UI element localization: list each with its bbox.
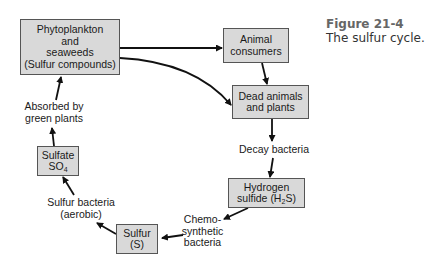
- label-chemosynthetic-bacteria: Chemo- synthetic bacteria: [180, 214, 225, 249]
- sulfur-cycle-diagram: Phytoplankton and seaweeds (Sulfur compo…: [0, 0, 433, 266]
- label-sulfur-bacteria: Sulfur bacteria (aerobic): [45, 197, 117, 220]
- label-line: (aerobic): [45, 209, 117, 221]
- arrow-h2s-to-chemo: [224, 208, 248, 219]
- formula-subscript: 4: [64, 166, 68, 173]
- node-line: and plants: [246, 102, 294, 114]
- node-hydrogen-sulfide: Hydrogen sulfide (H2S): [228, 178, 305, 208]
- label-line: green plants: [23, 113, 85, 125]
- formula-part: sulfide (H: [237, 192, 281, 204]
- node-line: consumers: [230, 46, 281, 58]
- node-line: Animal: [240, 34, 272, 46]
- node-line: (S): [130, 239, 144, 251]
- arrow-phyto-to-dead: [120, 58, 231, 105]
- label-line: Absorbed by: [23, 101, 85, 113]
- node-line: Phytoplankton: [37, 24, 104, 36]
- node-phytoplankton: Phytoplankton and seaweeds (Sulfur compo…: [20, 19, 120, 75]
- arrow-bacteria-to-sulfate: [63, 177, 74, 195]
- arrow-absorbed-to-phyto: [56, 77, 61, 100]
- arrow-sulfate-to-absorbed: [52, 128, 54, 146]
- node-line: (Sulfur compounds): [24, 59, 116, 71]
- node-line: seaweeds: [46, 47, 93, 59]
- arrow-sulfur-to-bacteria: [97, 223, 116, 234]
- arrow-decay-to-h2s: [270, 158, 273, 177]
- label-absorbed-by-green-plants: Absorbed by green plants: [23, 101, 85, 124]
- formula-part: S): [285, 192, 296, 204]
- node-sulfate: Sulfate SO4: [37, 146, 79, 176]
- arrow-animals-to-dead: [262, 63, 267, 84]
- node-animal-consumers: Animal consumers: [223, 28, 289, 63]
- formula-part: SO: [48, 160, 63, 172]
- label-decay-bacteria: Decay bacteria: [239, 144, 309, 156]
- label-line: Sulfur bacteria: [45, 197, 117, 209]
- figure-number: Figure 21-4: [326, 17, 404, 31]
- node-line: sulfide (H2S): [237, 193, 296, 205]
- node-sulfur: Sulfur (S): [116, 224, 158, 254]
- label-line: bacteria: [180, 237, 225, 249]
- node-line: SO4: [48, 161, 67, 173]
- node-dead-animals-plants: Dead animals and plants: [232, 85, 309, 119]
- label-line: Chemo-: [180, 214, 225, 226]
- figure-title: The sulfur cycle.: [326, 31, 425, 45]
- figure-caption: Figure 21-4 The sulfur cycle.: [326, 17, 431, 45]
